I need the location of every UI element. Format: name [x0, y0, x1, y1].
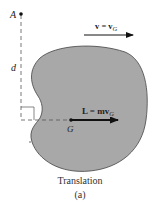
subcaption: (a): [74, 189, 85, 201]
center-of-mass-label: G: [67, 124, 74, 134]
point-a-label: A: [9, 9, 17, 20]
translation-diagram: A d v = vG G L = mvG Translation (a): [0, 0, 155, 209]
distance-d-label: d: [11, 62, 17, 73]
velocity-label: v = vG: [95, 21, 118, 32]
right-angle-marker: [21, 107, 34, 120]
caption: Translation: [57, 175, 102, 186]
small-mark: [29, 141, 30, 142]
point-a-dot: [19, 12, 23, 16]
